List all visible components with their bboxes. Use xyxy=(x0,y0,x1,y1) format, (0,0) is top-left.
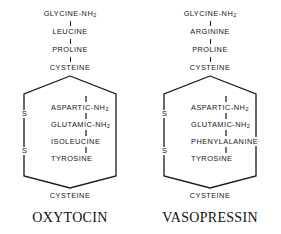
sulfur-atom-label: S xyxy=(160,110,169,118)
ring-residue-label: GLUTAMIC-NH2 xyxy=(50,120,111,129)
ring-residue: TYROSINE xyxy=(34,151,140,168)
ring-residue: PHENYLALANINE xyxy=(174,134,280,151)
ring-residue-label: TYROSINE xyxy=(50,154,93,163)
ring-residue: TYROSINE xyxy=(174,151,280,168)
ring-residue: GLUTAMIC-NH2 xyxy=(174,117,280,134)
structure-oxytocin: GLYCINE-NH2 LEUCINE PROLINE CYSTEINE S S xyxy=(0,0,140,234)
sulfur-atom-label: S xyxy=(20,110,29,118)
ring-residue-list: ASPARTIC-NH2 GLUTAMIC-NH2 ISOLEUCINE TYR… xyxy=(34,100,140,168)
ring-residue-label: PHENYLALANINE xyxy=(190,137,259,146)
ring-residue-label: ASPARTIC-NH2 xyxy=(190,103,250,112)
ring-residue-label: ISOLEUCINE xyxy=(50,137,101,146)
ring-bottom-residue-label: CYSTEINE xyxy=(0,191,140,200)
ring-residue: ISOLEUCINE xyxy=(34,134,140,151)
hormone-title: OXYTOCIN xyxy=(0,210,140,226)
ring-residue-list: ASPARTIC-NH2 GLUTAMIC-NH2 PHENYLALANINE … xyxy=(174,100,280,168)
peptide-structures-figure: GLYCINE-NH2 LEUCINE PROLINE CYSTEINE S S xyxy=(0,0,281,234)
sulfur-atom-label: S xyxy=(20,147,29,155)
ring-residue: GLUTAMIC-NH2 xyxy=(34,117,140,134)
ring-residue: ASPARTIC-NH2 xyxy=(34,100,140,117)
structure-vasopressin: GLYCINE-NH2 ARGININE PROLINE CYSTEINE S … xyxy=(140,0,280,234)
ring-residue-label: ASPARTIC-NH2 xyxy=(50,103,110,112)
ring-residue-label: TYROSINE xyxy=(190,154,233,163)
sulfur-atom-label: S xyxy=(160,147,169,155)
ring-bottom-residue-label: CYSTEINE xyxy=(140,191,280,200)
hormone-title: VASOPRESSIN xyxy=(140,210,280,226)
ring-residue-label: GLUTAMIC-NH2 xyxy=(190,120,251,129)
ring-residue: ASPARTIC-NH2 xyxy=(174,100,280,117)
